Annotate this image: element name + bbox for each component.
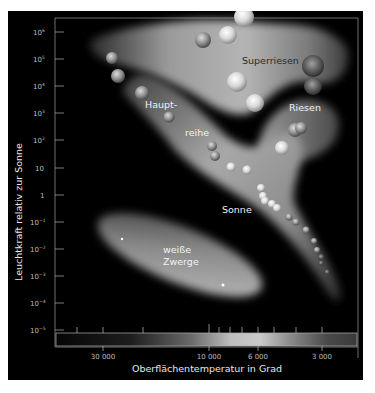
- y-tick-1: 1: [40, 192, 44, 200]
- label-giants: Riesen: [289, 102, 321, 113]
- hr-diagram-panel: Superriesen Riesen Haupt- reihe Sonne we…: [8, 11, 363, 380]
- x-tick-30000: 30 000: [91, 353, 116, 361]
- y-tick-10: 10: [35, 165, 44, 173]
- label-main-sequence-line2: reihe: [185, 127, 209, 138]
- temperature-color-bar: [55, 333, 358, 347]
- x-axis-title: Oberflächentemperatur in Grad: [132, 363, 282, 374]
- hr-diagram: Superriesen Riesen Haupt- reihe Sonne we…: [8, 11, 363, 380]
- label-white-dwarfs-line1: weiße: [163, 244, 191, 255]
- x-tick-3000: 3 000: [312, 353, 332, 361]
- label-white-dwarfs-line2: Zwerge: [163, 256, 199, 267]
- y-axis-title: Leuchtkraft relativ zur Sonne: [13, 143, 24, 281]
- label-supergiants: Superriesen: [242, 55, 299, 66]
- label-main-sequence-line1: Haupt-: [145, 99, 177, 110]
- x-tick-6000: 6 000: [248, 353, 268, 361]
- label-sun: Sonne: [222, 204, 252, 215]
- x-tick-10000: 10 000: [197, 353, 222, 361]
